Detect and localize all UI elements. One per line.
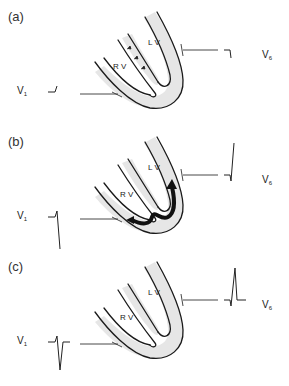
v1-ecg-trace	[48, 336, 70, 370]
panel-c-label: (c)	[8, 259, 23, 274]
v1-ecg-trace	[48, 86, 57, 92]
panel-a-label: (a)	[8, 9, 24, 24]
v1-lead-label: V1	[17, 210, 28, 222]
v6-electrode	[181, 169, 183, 181]
v6-electrode	[181, 294, 183, 306]
panel-a: (a) L V R V V1 V6	[8, 9, 273, 108]
v1-lead-label: V1	[17, 335, 28, 347]
v1-ecg-trace	[48, 211, 60, 249]
lv-label: L V	[148, 38, 160, 47]
lv-label: L V	[148, 163, 160, 172]
panel-b-label: (b)	[8, 134, 24, 149]
v6-ecg-trace	[224, 143, 234, 181]
panel-c: (c) L V R V V1 V6	[8, 259, 273, 370]
v1-lead-label: V1	[17, 85, 28, 97]
v6-lead-label: V6	[262, 49, 273, 61]
ventricular-depolarization-diagram: (a) L V R V V1 V6 (b) L V R V V	[0, 0, 289, 386]
rv-label: R V	[113, 62, 127, 71]
v6-ecg-trace	[224, 268, 246, 306]
v6-lead-label: V6	[262, 174, 273, 186]
rv-label: R V	[120, 190, 134, 199]
v6-electrode	[181, 44, 183, 56]
rv-label: R V	[120, 313, 134, 322]
v6-ecg-trace	[224, 50, 231, 58]
panel-b: (b) L V R V V1 V6	[8, 134, 273, 249]
v6-lead-label: V6	[262, 299, 273, 311]
lv-label: L V	[148, 288, 160, 297]
